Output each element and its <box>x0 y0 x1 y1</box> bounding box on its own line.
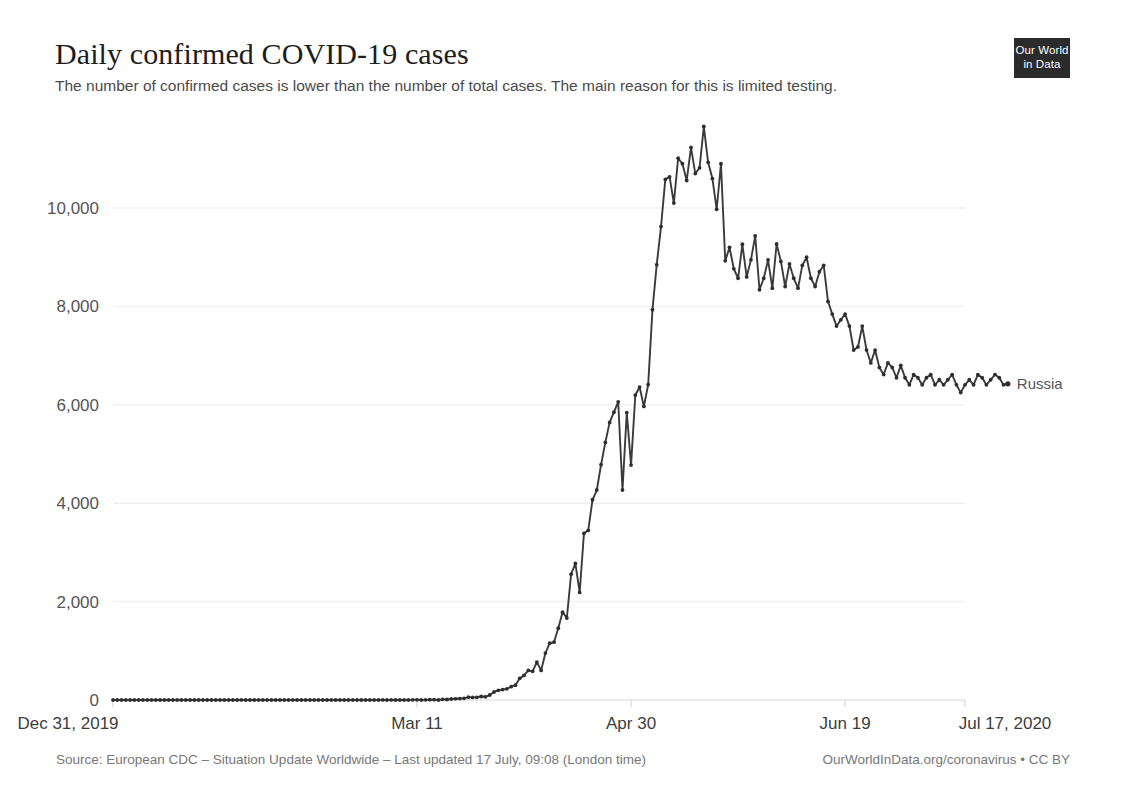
svg-text:0: 0 <box>90 691 99 710</box>
gridlines <box>113 208 965 700</box>
svg-text:Dec 31, 2019: Dec 31, 2019 <box>17 714 118 733</box>
chart-footer: Source: European CDC – Situation Update … <box>56 752 1070 767</box>
logo-line-1: Our World <box>1015 44 1068 58</box>
svg-text:Apr 30: Apr 30 <box>606 714 656 733</box>
source-note: Source: European CDC – Situation Update … <box>56 752 646 767</box>
x-axis-tick-labels: Dec 31, 2019Mar 11Apr 30Jun 19Jul 17, 20… <box>17 714 1051 733</box>
svg-text:10,000: 10,000 <box>47 199 99 218</box>
chart-page: Daily confirmed COVID-19 cases The numbe… <box>0 0 1123 802</box>
logo-line-2: in Data <box>1023 58 1060 72</box>
chart-plot-area: 02,0004,0006,0008,00010,000 Dec 31, 2019… <box>0 0 1123 802</box>
line-chart-svg: 02,0004,0006,0008,00010,000 Dec 31, 2019… <box>0 0 1123 802</box>
svg-text:Jul 17, 2020: Jul 17, 2020 <box>959 714 1052 733</box>
attribution-note[interactable]: OurWorldInData.org/coronavirus • CC BY <box>822 752 1070 767</box>
svg-text:2,000: 2,000 <box>56 593 99 612</box>
chart-header: Daily confirmed COVID-19 cases The numbe… <box>55 38 1073 96</box>
chart-subtitle: The number of confirmed cases is lower t… <box>55 76 1073 95</box>
y-axis-tick-labels: 02,0004,0006,0008,00010,000 <box>47 199 99 710</box>
page-title: Daily confirmed COVID-19 cases <box>55 38 1073 70</box>
svg-text:Jun 19: Jun 19 <box>820 714 871 733</box>
x-axis-tick-marks <box>113 700 965 707</box>
svg-text:8,000: 8,000 <box>56 297 99 316</box>
our-world-in-data-logo[interactable]: Our World in Data <box>1014 38 1070 78</box>
svg-text:6,000: 6,000 <box>56 396 99 415</box>
series-line-russia <box>113 127 1008 700</box>
svg-text:4,000: 4,000 <box>56 494 99 513</box>
svg-text:Mar 11: Mar 11 <box>391 714 443 733</box>
svg-text:Russia: Russia <box>1017 375 1064 392</box>
series-end-label: Russia <box>1005 375 1063 392</box>
series-markers-russia <box>111 125 1010 702</box>
